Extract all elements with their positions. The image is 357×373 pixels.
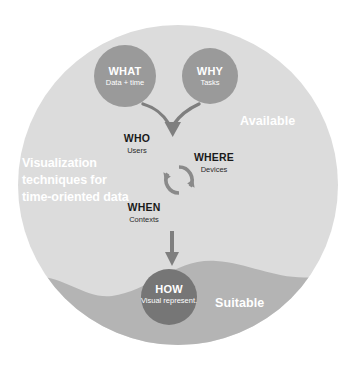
node-subtitle-who: Users [106, 147, 168, 155]
node-subtitle-where: Devices [181, 166, 247, 174]
node-subtitle-when: Contexts [111, 216, 177, 224]
node-title-what: WHAT [93, 65, 157, 77]
region-label-available: Available [240, 114, 295, 128]
node-label-where[interactable]: WHERE Devices [181, 152, 247, 174]
node-label-what[interactable]: WHAT Data + time [93, 65, 157, 87]
region-label-suitable: Suitable [215, 296, 264, 310]
node-title-how: HOW [137, 283, 201, 295]
node-label-who[interactable]: WHO Users [106, 133, 168, 155]
diagram-canvas: Visualization techniques for time-orient… [0, 0, 357, 373]
node-label-why[interactable]: WHY Tasks [178, 65, 242, 87]
node-title-where: WHERE [181, 152, 247, 164]
node-subtitle-how: Visual represent. [137, 297, 201, 306]
node-label-how[interactable]: HOW Visual represent. [137, 283, 201, 306]
node-title-who: WHO [106, 133, 168, 145]
node-subtitle-why: Tasks [178, 79, 242, 87]
node-subtitle-what: Data + time [93, 79, 157, 87]
node-title-why: WHY [178, 65, 242, 77]
node-title-when: WHEN [111, 202, 177, 214]
page-title: Visualization techniques for time-orient… [22, 155, 134, 206]
node-label-when[interactable]: WHEN Contexts [111, 202, 177, 224]
